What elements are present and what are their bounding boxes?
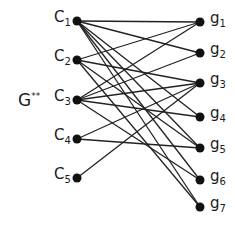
- label-g1: g1: [210, 11, 226, 29]
- node-g6: [196, 176, 205, 185]
- label-g4: g4: [210, 106, 226, 124]
- graph-title: G**: [18, 92, 40, 109]
- label-g2: g2: [210, 42, 226, 60]
- edge-c2-g3: [77, 60, 200, 83]
- node-c2: [73, 56, 82, 65]
- label-g6: g6: [210, 169, 226, 187]
- edge-c1-g5: [77, 21, 200, 148]
- label-g3: g3: [210, 72, 226, 90]
- graph-title-text: G: [18, 90, 31, 110]
- node-g1: [196, 18, 205, 27]
- edge-c2-g1: [77, 22, 200, 60]
- label-g5: g5: [210, 137, 226, 155]
- edge-c2-g7: [77, 60, 200, 207]
- edge-c1-g6: [77, 21, 200, 180]
- node-c3: [73, 96, 82, 105]
- node-g2: [196, 49, 205, 58]
- node-c1: [73, 17, 82, 26]
- node-c5: [73, 174, 82, 183]
- bipartite-graph: [0, 0, 235, 232]
- node-g7: [196, 203, 205, 212]
- edge-c1-g1: [77, 21, 200, 22]
- label-g7: g7: [210, 196, 226, 214]
- label-c3: C3: [54, 89, 71, 107]
- label-c2: C2: [54, 49, 71, 67]
- label-c5: C5: [54, 167, 71, 185]
- node-g4: [196, 113, 205, 122]
- label-c1: C1: [54, 10, 71, 28]
- node-g5: [196, 144, 205, 153]
- edge-c3-g1: [77, 22, 200, 100]
- label-c4: C4: [54, 128, 71, 146]
- edge-c3-g2: [77, 53, 200, 100]
- node-c4: [73, 135, 82, 144]
- node-g3: [196, 79, 205, 88]
- edges: [77, 21, 200, 207]
- edge-c2-g5: [77, 60, 200, 148]
- graph-title-superscript: **: [31, 91, 40, 101]
